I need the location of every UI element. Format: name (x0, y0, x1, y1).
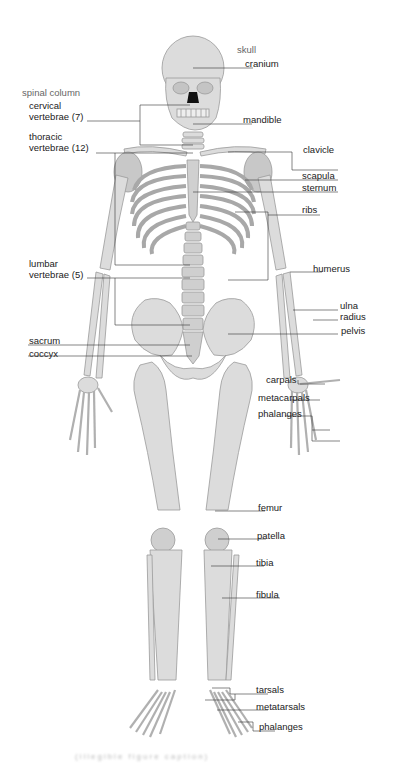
label-cervical-vertebrae: vertebrae (7) (29, 111, 83, 122)
label-cervical: cervical (29, 100, 61, 111)
label-tarsals: tarsals (256, 684, 284, 695)
label-scapula: scapula (302, 170, 335, 181)
label-humerus: humerus (313, 263, 350, 274)
label-foot-phalanges: phalanges (259, 721, 303, 732)
skeleton-illustration (70, 36, 340, 737)
label-metatarsals: metatarsals (256, 701, 305, 712)
figure-caption: (illegible figure caption) (75, 752, 325, 762)
label-radius: radius (340, 311, 366, 322)
label-thoracic-vertebrae: vertebrae (12) (29, 142, 89, 153)
label-thoracic: thoracic (29, 131, 62, 142)
label-lumbar: lumbar (29, 258, 58, 269)
label-ribs: ribs (302, 204, 317, 215)
legs (134, 362, 253, 680)
label-lumbar-vertebrae: vertebrae (5) (29, 269, 83, 280)
label-spinal-column: spinal column (22, 87, 80, 98)
label-pelvis: pelvis (341, 325, 365, 336)
skull (162, 36, 224, 130)
label-sacrum: sacrum (29, 335, 60, 346)
label-patella: patella (257, 530, 285, 541)
label-coccyx: coccyx (29, 348, 58, 359)
cervical-vertebrae (182, 132, 204, 149)
label-cranium: cranium (245, 58, 279, 69)
label-tibia: tibia (256, 557, 273, 568)
label-hand-phalanges: phalanges (258, 408, 302, 419)
label-metacarpals: metacarpals (258, 392, 310, 403)
label-femur: femur (258, 502, 282, 513)
feet (130, 690, 252, 737)
label-sternum: sternum (302, 182, 336, 193)
label-ulna: ulna (340, 300, 358, 311)
label-clavicle: clavicle (303, 144, 334, 155)
label-fibula: fibula (256, 589, 279, 600)
label-mandible: mandible (243, 114, 282, 125)
sternum (187, 160, 199, 222)
label-skull: skull (237, 44, 256, 55)
label-carpals: carpals (266, 374, 297, 385)
spine (182, 222, 204, 330)
